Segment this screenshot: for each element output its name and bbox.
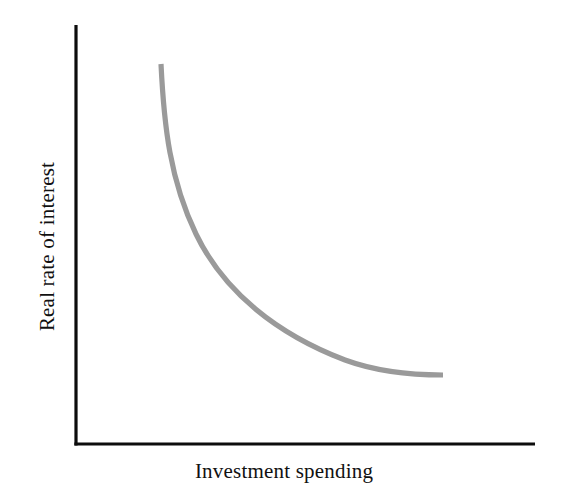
chart-canvas bbox=[0, 0, 568, 493]
x-axis-label: Investment spending bbox=[0, 458, 568, 484]
investment-demand-curve bbox=[161, 64, 443, 375]
y-axis-label: Real rate of interest bbox=[24, 0, 70, 493]
investment-demand-figure: Real rate of interest Investment spendin… bbox=[0, 0, 568, 493]
